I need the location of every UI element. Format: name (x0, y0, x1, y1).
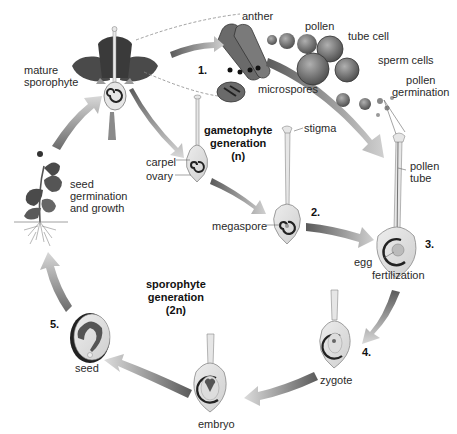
arrow-carpel-to-megaspore (210, 178, 266, 214)
label-pollen-germination: pollen germination (392, 74, 449, 98)
label-seed: seed (75, 362, 99, 374)
arrow-seedling-to-flower (52, 96, 102, 150)
step-1: 1. (198, 64, 207, 76)
arrow-embryo-to-seed (104, 354, 192, 398)
step-3: 3. (425, 238, 434, 250)
label-embryo: embryo (198, 418, 235, 430)
arrow-fertilization-to-zygote (362, 290, 400, 344)
label-megaspore: megaspore (212, 220, 267, 232)
flower-illustration (72, 27, 158, 141)
label-stigma: stigma (304, 122, 336, 134)
zygote-illustration (320, 290, 350, 368)
embryo-illustration (194, 334, 226, 412)
label-egg: egg (354, 256, 372, 268)
seed-illustration (70, 313, 110, 363)
label-pollen-tube: pollen tube (410, 160, 439, 184)
arrow-seed-to-seedling (40, 252, 72, 312)
label-microspores: microspores (258, 83, 318, 95)
leader-line (384, 100, 405, 132)
gametophyte-generation-title: gametophyte generation (n) (204, 124, 272, 163)
sporophyte-generation-title: sporophyte generation (2n) (146, 278, 206, 317)
arrow-megaspore-to-fertilization (306, 223, 374, 248)
label-mature-sporophyte: mature sporophyte (24, 64, 78, 88)
label-ovary: ovary (146, 170, 173, 182)
step-2: 2. (311, 206, 320, 218)
step-4: 4. (362, 346, 371, 358)
seedling-illustration (14, 151, 68, 246)
arrow-zygote-to-embryo (244, 372, 318, 406)
label-zygote: zygote (320, 374, 352, 386)
arrow-flower-to-anther (170, 36, 224, 58)
megaspore-illustration (274, 126, 301, 244)
leader-line (294, 128, 303, 131)
label-anther: anther (242, 10, 273, 22)
leader-line (384, 100, 396, 134)
label-fertilization: fertilization (372, 269, 425, 281)
label-pollen: pollen (305, 20, 334, 32)
label-carpel: carpel (146, 156, 176, 168)
label-sperm-cells: sperm cells (378, 54, 434, 66)
step-5: 5. (50, 318, 59, 330)
label-seed-germination: seed germination and growth (70, 178, 127, 214)
label-tube-cell: tube cell (348, 30, 389, 42)
arrow-flower-to-carpel (129, 88, 184, 158)
